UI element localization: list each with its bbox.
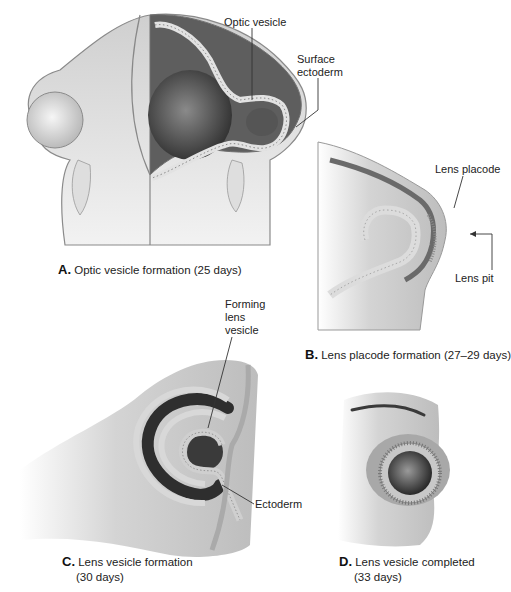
label-lens-pit: Lens pit (455, 272, 494, 285)
leader-lens-pit (470, 234, 492, 270)
caption-letter-d: D. (339, 554, 352, 569)
label-lens-placode: Lens placode (435, 163, 500, 176)
panel-c-drawing (20, 337, 258, 557)
embryo-head-section (318, 142, 446, 330)
lens-vesicle-lumen-d (388, 451, 432, 495)
caption-letter-c: C. (62, 554, 75, 569)
panel-a-drawing (27, 14, 318, 245)
caption-text-a: Optic vesicle formation (25 days) (74, 264, 241, 276)
label-forming: Forming (225, 298, 265, 311)
label-optic-vesicle: Optic vesicle (224, 16, 286, 29)
caption-panel-c-line1: C. Lens vesicle formation (62, 555, 193, 569)
label-lens: lens (225, 311, 245, 324)
caption-panel-b: B. Lens placode formation (27–29 days) (305, 348, 511, 362)
left-optic-bulge (27, 92, 83, 148)
optic-vesicle-lumen (246, 108, 278, 136)
caption-panel-d-line2: (33 days) (354, 570, 402, 584)
caption-panel-c-line2: (30 days) (76, 570, 124, 584)
label-vesicle: vesicle (225, 324, 259, 337)
caption-panel-a: A. Optic vesicle formation (25 days) (58, 263, 242, 277)
label-ectoderm-a: ectoderm (297, 66, 343, 79)
caption-text-c: Lens vesicle formation (78, 556, 192, 568)
caption-panel-d-line1: D. Lens vesicle completed (339, 555, 475, 569)
panel-d-drawing (338, 392, 450, 546)
caption-letter-a: A. (58, 262, 71, 277)
caption-letter-b: B. (305, 347, 318, 362)
label-surface: Surface (297, 53, 335, 66)
label-ectoderm-c: Ectoderm (255, 498, 302, 511)
caption-text-b: Lens placode formation (27–29 days) (321, 349, 511, 361)
caption-text-d: Lens vesicle completed (355, 556, 475, 568)
arrow-lens-pit-icon (470, 231, 476, 237)
leader-lens-placode (454, 176, 463, 208)
